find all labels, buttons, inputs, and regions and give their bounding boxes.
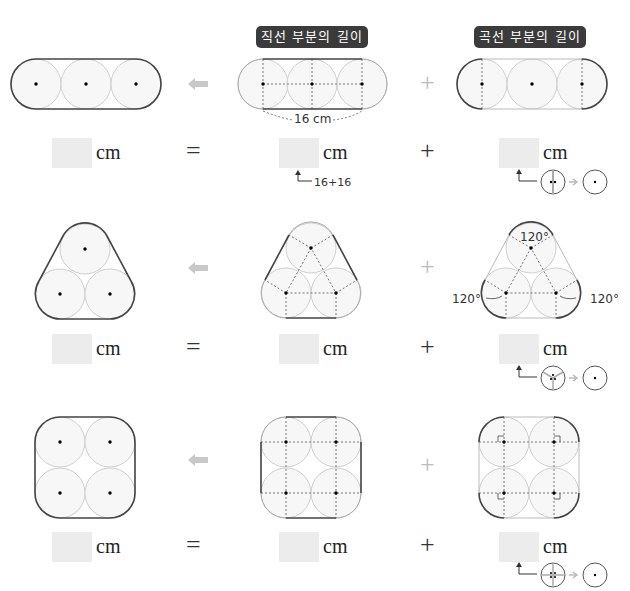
curve-hint-quarters-icon bbox=[0, 0, 630, 591]
